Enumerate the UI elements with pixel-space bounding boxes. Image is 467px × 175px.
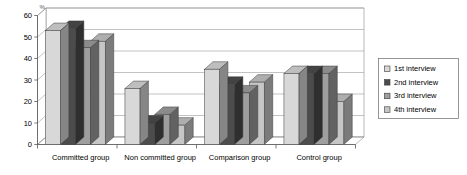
bar-chart: 0102030405060%Committed groupNon committ… (0, 0, 467, 175)
bar-front-face (45, 31, 60, 145)
legend-swatch-3 (385, 93, 391, 99)
bar-side-face (299, 66, 308, 144)
legend-label-2: 2nd interview (394, 78, 439, 87)
legend-label-3: 3rd interview (394, 91, 437, 100)
category-label-comparison-group: Comparison group (209, 153, 271, 162)
bar-front-face (204, 69, 219, 144)
axis-unit-label: % (40, 4, 46, 10)
ytick-label-40: 40 (24, 54, 32, 63)
bar-side-face (314, 66, 323, 144)
bar-side-face (105, 34, 114, 145)
bar-side-face (219, 62, 228, 145)
legend-label-1: 1st interview (394, 64, 436, 73)
bar-non-committed-group-s1 (125, 81, 148, 144)
bar-side-face (75, 21, 84, 145)
bar-side-face (234, 77, 243, 145)
bar-comparison-group-s1 (204, 62, 227, 145)
category-label-non-committed-group: Non committed group (124, 153, 196, 162)
bar-side-face (249, 85, 258, 144)
legend-swatch-1 (385, 66, 391, 72)
legend-swatch-2 (385, 80, 391, 86)
ytick-label-50: 50 (24, 33, 32, 42)
ytick-label-30: 30 (24, 76, 32, 85)
bar-side-face (60, 23, 69, 144)
ytick-label-0: 0 (28, 140, 32, 149)
legend-label-4: 4th interview (394, 105, 437, 114)
legend-swatch-4 (385, 107, 391, 113)
category-label-control-group: Control group (296, 153, 341, 162)
bar-committed-group-s1 (45, 23, 68, 144)
chart-container: 0102030405060%Committed groupNon committ… (0, 0, 467, 175)
bar-control-group-s1 (284, 66, 307, 144)
bar-side-face (264, 75, 273, 145)
ytick-label-60: 60 (24, 11, 32, 20)
bar-front-face (284, 74, 299, 145)
category-label-committed-group: Committed group (52, 153, 110, 162)
bar-side-face (329, 66, 338, 144)
bar-front-face (125, 89, 140, 145)
ytick-label-20: 20 (24, 97, 32, 106)
ytick-label-10: 10 (24, 119, 32, 128)
bar-side-face (140, 81, 149, 144)
bar-side-face (344, 94, 353, 145)
bar-side-face (90, 40, 99, 144)
